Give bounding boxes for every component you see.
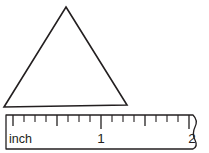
triangle-shape [4, 7, 127, 107]
ruler-label-inch: inch [9, 132, 32, 146]
ruler-label-2: 2 [188, 131, 196, 146]
figure-canvas: inch12 [0, 0, 209, 153]
figure-svg: inch12 [0, 0, 209, 153]
ruler-label-1: 1 [97, 131, 105, 146]
